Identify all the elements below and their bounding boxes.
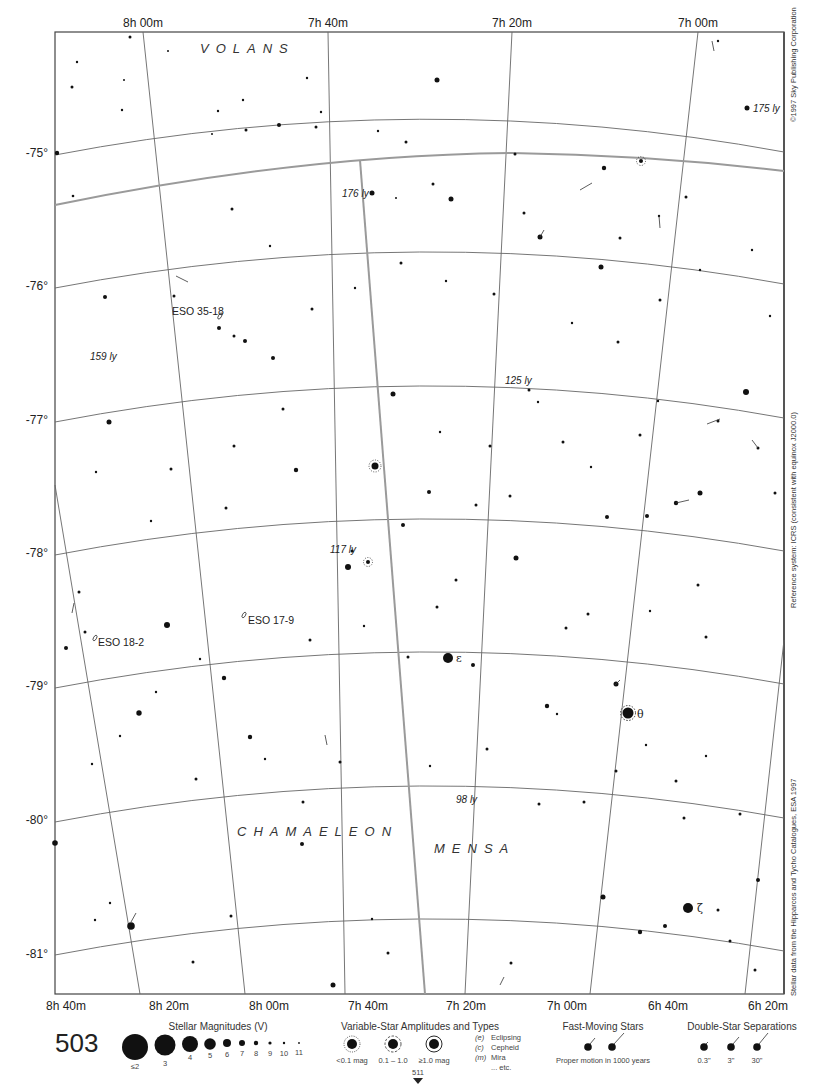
svg-text:-78°: -78° xyxy=(26,546,48,560)
svg-text:ESO 18-2: ESO 18-2 xyxy=(98,636,144,648)
svg-text:7h 20m: 7h 20m xyxy=(492,16,532,30)
distance-label: 176 ly xyxy=(342,188,370,199)
svg-text:Fast-Moving Stars: Fast-Moving Stars xyxy=(562,1021,643,1032)
svg-text:3": 3" xyxy=(728,1056,735,1065)
svg-text:Mira: Mira xyxy=(491,1053,506,1062)
svg-text:Cepheid: Cepheid xyxy=(491,1043,519,1052)
svg-text:30": 30" xyxy=(751,1056,762,1065)
svg-text:5: 5 xyxy=(208,1051,212,1060)
svg-text:≥1.0 mag: ≥1.0 mag xyxy=(418,1056,449,1065)
svg-text:Proper motion in 1000 years: Proper motion in 1000 years xyxy=(556,1056,650,1065)
svg-text:(e): (e) xyxy=(475,1033,485,1042)
svg-text:9: 9 xyxy=(268,1049,272,1058)
svg-text:-79°: -79° xyxy=(26,679,48,693)
svg-text:6: 6 xyxy=(225,1050,229,1059)
svg-text:Stellar Magnitudes (V): Stellar Magnitudes (V) xyxy=(169,1021,268,1032)
svg-text:7h 00m: 7h 00m xyxy=(547,999,587,1013)
constellation-boundaries xyxy=(55,153,784,994)
svg-text:8h 20m: 8h 20m xyxy=(149,999,189,1013)
svg-text:7h 20m: 7h 20m xyxy=(446,999,486,1013)
svg-text:-76°: -76° xyxy=(26,279,48,293)
svg-text:7: 7 xyxy=(240,1049,244,1058)
legend-magnitudes: Stellar Magnitudes (V) ≤2 3 4 5 6 7 8 9 … xyxy=(122,1021,303,1071)
svg-text:8h 40m: 8h 40m xyxy=(46,999,86,1013)
svg-text:8h 00m: 8h 00m xyxy=(123,16,163,30)
page-number: 503 xyxy=(55,1028,98,1058)
distance-label: 125 ly xyxy=(505,375,533,386)
arrow-down-icon xyxy=(413,1078,423,1084)
coordinate-grid xyxy=(55,32,784,994)
svg-text:511: 511 xyxy=(412,1068,424,1077)
svg-text:≤2: ≤2 xyxy=(131,1062,139,1071)
svg-text:-77°: -77° xyxy=(26,413,48,427)
svg-text:Eclipsing: Eclipsing xyxy=(491,1033,521,1042)
svg-text:-75°: -75° xyxy=(26,146,48,160)
svg-text:4: 4 xyxy=(188,1053,192,1062)
svg-text:6h 20m: 6h 20m xyxy=(748,999,788,1013)
star-atlas-chart: 8h 00m 7h 40m 7h 20m 7h 00m 8h 40m 8h 20… xyxy=(0,0,817,1091)
svg-text:6h 40m: 6h 40m xyxy=(648,999,688,1013)
constellation-mensa: MENSA xyxy=(434,841,515,856)
svg-text:(m): (m) xyxy=(475,1053,487,1062)
svg-text:0.1 – 1.0: 0.1 – 1.0 xyxy=(378,1056,407,1065)
ra-labels-bottom: 8h 40m 8h 20m 8h 00m 7h 40m 7h 20m 7h 00… xyxy=(46,999,788,1013)
distance-label: 117 ly xyxy=(330,544,357,555)
svg-text:ζ: ζ xyxy=(697,902,703,915)
data-source-note: Stellar data from the Hipparcos and Tych… xyxy=(789,779,798,997)
dec-labels: -75° -76° -77° -78° -79° -80° -81° xyxy=(26,146,48,961)
star-zeta xyxy=(683,903,693,913)
distance-label: 159 ly xyxy=(90,351,118,362)
svg-text:θ: θ xyxy=(637,708,644,721)
ra-labels-top: 8h 00m 7h 40m 7h 20m 7h 00m xyxy=(123,16,718,30)
svg-text:7h 00m: 7h 00m xyxy=(678,16,718,30)
svg-text:ESO 35-18: ESO 35-18 xyxy=(172,305,224,317)
legend-fast-moving-stars: Fast-Moving Stars Proper motion in 1000 … xyxy=(556,1021,650,1065)
distance-label: 98 ly xyxy=(456,794,478,805)
svg-text:3: 3 xyxy=(163,1059,167,1068)
variable-stars xyxy=(364,157,646,567)
svg-text:-80°: -80° xyxy=(26,813,48,827)
svg-text:Variable-Star Amplitudes and T: Variable-Star Amplitudes and Types xyxy=(341,1021,499,1032)
svg-text:7h 40m: 7h 40m xyxy=(308,16,348,30)
svg-text:(c): (c) xyxy=(475,1043,484,1052)
svg-text:11: 11 xyxy=(295,1048,303,1057)
legend-double-stars: Double-Star Separations 0.3" 3" 30" xyxy=(687,1021,797,1065)
constellation-volans: VOLANS xyxy=(200,41,295,56)
svg-text:ESO 17-9: ESO 17-9 xyxy=(248,614,294,626)
distance-label: 175 ly xyxy=(753,103,781,114)
svg-text:... etc.: ... etc. xyxy=(491,1063,511,1072)
svg-text:8h 00m: 8h 00m xyxy=(249,999,289,1013)
chart-frame xyxy=(55,32,784,994)
named-stars: ε θ ζ xyxy=(443,652,703,915)
copyright-note: ©1997 Sky Publishing Corporation xyxy=(789,7,798,122)
svg-text:7h 40m: 7h 40m xyxy=(348,999,388,1013)
svg-text:ε: ε xyxy=(456,652,462,665)
legend-variable-stars: Variable-Star Amplitudes and Types <0.1 … xyxy=(336,1021,521,1072)
reference-system-note: Reference system: ICRS (consistent with … xyxy=(789,412,798,608)
adjacent-chart-link[interactable]: 511 xyxy=(412,1068,424,1084)
deep-sky-objects: ESO 35-18 ESO 17-9 ESO 18-2 xyxy=(92,305,294,648)
star-theta xyxy=(623,708,634,719)
constellation-chamaeleon: CHAMAELEON xyxy=(237,824,398,839)
svg-text:Double-Star Separations: Double-Star Separations xyxy=(687,1021,797,1032)
svg-text:<0.1 mag: <0.1 mag xyxy=(336,1056,367,1065)
svg-text:10: 10 xyxy=(280,1049,288,1058)
svg-text:0.3": 0.3" xyxy=(697,1056,710,1065)
star-epsilon xyxy=(443,653,453,663)
svg-text:8: 8 xyxy=(254,1049,258,1058)
svg-text:-81°: -81° xyxy=(26,947,48,961)
